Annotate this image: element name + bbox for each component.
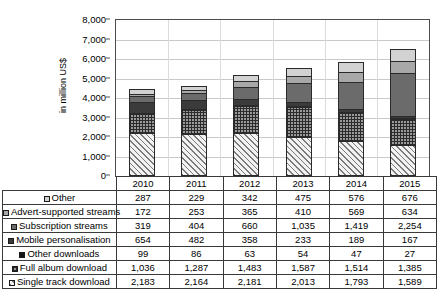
category-separator [220, 20, 221, 176]
table-cell: 253 [170, 205, 223, 219]
bar-segment [286, 83, 312, 103]
legend-label: Mobile personalisation [16, 234, 111, 245]
table-cell: 676 [383, 191, 436, 205]
table-year-header: 2015 [383, 177, 436, 191]
table-cell: 410 [276, 205, 329, 219]
table-cell: 404 [170, 219, 223, 233]
bar-2011 [181, 86, 207, 176]
table-cell: 189 [330, 233, 383, 247]
legend-swatch-icon [8, 238, 14, 244]
y-axis-tick: 6,000 [82, 53, 106, 64]
bar-segment [338, 82, 364, 110]
legend-swatch-icon [12, 266, 18, 272]
table-cell: 569 [330, 205, 383, 219]
table-cell: 660 [223, 219, 276, 233]
table-row: Other287229342475576676 [3, 191, 437, 205]
table-row-label-cell: Other [3, 191, 117, 205]
y-axis-tick-mark [106, 155, 110, 156]
table-year-header: 2011 [170, 177, 223, 191]
y-axis-tick-mark [106, 19, 110, 20]
table-cell: 172 [116, 205, 169, 219]
bar-segment [181, 134, 207, 176]
table-row: Advert-supported streams1722533654105696… [3, 205, 437, 219]
table-cell: 1,589 [383, 275, 436, 289]
bar-segment [129, 133, 155, 176]
y-axis-tick-mark [106, 97, 110, 98]
table-row: Subscription streams3194046601,0351,4192… [3, 219, 437, 233]
table-cell: 482 [170, 233, 223, 247]
bar-segment [338, 113, 364, 143]
table-cell: 86 [170, 247, 223, 261]
legend-swatch-icon [3, 210, 9, 216]
table-cell: 1,385 [383, 261, 436, 275]
table-corner-spacer [3, 177, 117, 191]
table-year-header: 2012 [223, 177, 276, 191]
bar-segment [233, 106, 259, 135]
y-axis-tick: 4,000 [82, 92, 106, 103]
bar-segment [286, 137, 312, 176]
y-axis-tick: 7,000 [82, 33, 106, 44]
bar-segment [286, 107, 312, 138]
table-row-label-cell: Other downloads [3, 247, 117, 261]
legend-label: Other [52, 192, 76, 203]
table-row: Other downloads998663544727 [3, 247, 437, 261]
bar-segment [233, 133, 259, 176]
table-cell: 1,514 [330, 261, 383, 275]
y-axis-label: in million US$ [58, 58, 70, 113]
y-axis-tick: 8,000 [82, 14, 106, 25]
table-cell: 287 [116, 191, 169, 205]
bar-segment [338, 141, 364, 176]
table-cell: 475 [276, 191, 329, 205]
table-cell: 229 [170, 191, 223, 205]
table-cell: 2,164 [170, 275, 223, 289]
y-axis-tick-mark [106, 116, 110, 117]
table-cell: 1,587 [276, 261, 329, 275]
table-cell: 634 [383, 205, 436, 219]
table-cell: 167 [383, 233, 436, 247]
table-cell: 319 [116, 219, 169, 233]
table-cell: 1,483 [223, 261, 276, 275]
table-year-header: 2010 [116, 177, 169, 191]
stacked-bar-chart-figure: in million US$ 01,0002,0003,0004,0005,00… [0, 0, 439, 303]
legend-swatch-icon [44, 196, 50, 202]
y-axis-tick: 1,000 [82, 150, 106, 161]
legend-label: Advert-supported streams [11, 206, 120, 217]
bar-2014 [338, 62, 364, 176]
table-cell: 2,013 [276, 275, 329, 289]
table-row-label-cell: Advert-supported streams [3, 205, 117, 219]
table-row: Full album download1,0361,2871,4831,5871… [3, 261, 437, 275]
legend-swatch-icon [9, 280, 15, 286]
table-cell: 1,287 [170, 261, 223, 275]
y-axis-tick: 5,000 [82, 72, 106, 83]
legend-label: Single track download [17, 276, 110, 287]
y-axis-tick: 2,000 [82, 131, 106, 142]
table-cell: 54 [276, 247, 329, 261]
y-axis-tick-labels: 01,0002,0003,0004,0005,0006,0007,0008,00… [72, 12, 110, 182]
table-cell: 1,793 [330, 275, 383, 289]
table-row-label-cell: Subscription streams [3, 219, 117, 233]
bar-segment [390, 73, 416, 117]
table-cell: 63 [223, 247, 276, 261]
legend-label: Full album download [20, 262, 107, 273]
bar-2010 [129, 89, 155, 176]
table-cell: 47 [330, 247, 383, 261]
data-table-wrapper: 201020112012201320142015Other28722934247… [2, 176, 437, 289]
category-separator [168, 20, 169, 176]
plot-area [115, 19, 430, 177]
table-cell: 1,036 [116, 261, 169, 275]
category-separator [273, 20, 274, 176]
legend-label: Subscription streams [19, 220, 108, 231]
bar-segment [390, 119, 416, 146]
bar-2015 [390, 49, 416, 176]
table-cell: 365 [223, 205, 276, 219]
legend-swatch-icon [11, 224, 17, 230]
bar-2013 [286, 68, 312, 176]
table-year-header: 2014 [330, 177, 383, 191]
table-cell: 1,035 [276, 219, 329, 233]
table-year-row: 201020112012201320142015 [3, 177, 437, 191]
table-row-label-cell: Mobile personalisation [3, 233, 117, 247]
table-row: Mobile personalisation654482358233189167 [3, 233, 437, 247]
table-year-header: 2013 [276, 177, 329, 191]
bar-segment [181, 110, 207, 135]
category-separator [377, 20, 378, 176]
